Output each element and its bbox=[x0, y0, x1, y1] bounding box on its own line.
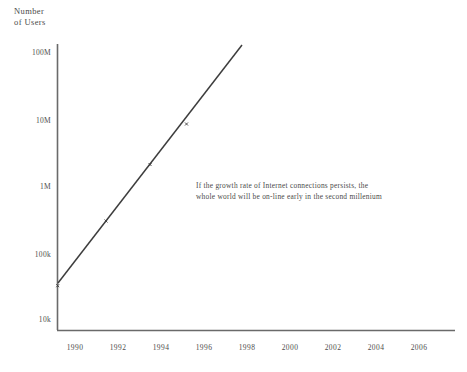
marker-1996 bbox=[185, 123, 188, 126]
plot-area bbox=[0, 0, 467, 372]
data-point-markers bbox=[56, 123, 188, 288]
chart-figure: Number of Users 100M 10M 1M 100k 10k 199… bbox=[0, 0, 467, 372]
